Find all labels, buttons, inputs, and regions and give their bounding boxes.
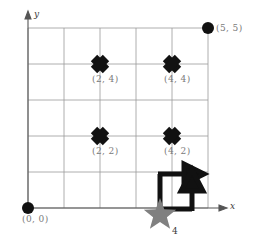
cross-2-4 (94, 58, 106, 70)
obstacle-label-4-2: (4, 2) (164, 146, 191, 156)
cross-4-4 (166, 58, 178, 70)
obstacle-label-4-4: (4, 4) (164, 74, 191, 84)
agent-star-marker (144, 198, 176, 229)
origin-dot-label: (0, 0) (22, 214, 49, 224)
goal-dot (202, 22, 214, 34)
obstacle-label-2-2: (2, 2) (92, 146, 119, 156)
cross-4-2 (166, 130, 178, 142)
goal-dot-label: (5, 5) (216, 23, 243, 33)
origin-dot (22, 202, 34, 214)
cross-2-2 (94, 130, 106, 142)
x-axis-label: x (230, 201, 235, 211)
y-axis-label: y (34, 9, 39, 19)
grid-lines (28, 28, 208, 208)
star-tick-label: 4 (172, 226, 178, 236)
obstacle-label-2-4: (2, 4) (92, 74, 119, 84)
